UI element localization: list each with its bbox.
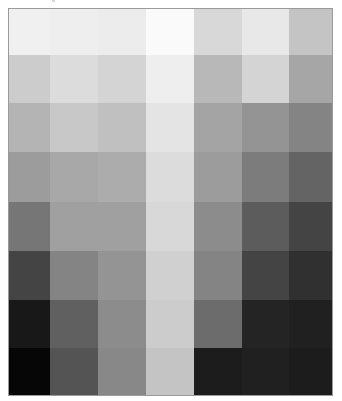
- gray-patch-r6-c7: [289, 251, 332, 300]
- gray-patch-r4-c4: [146, 152, 194, 202]
- gray-patch-r1-c2: [50, 9, 98, 55]
- gray-patch-r5-c6: [242, 202, 289, 251]
- gray-patch-r4-c1: [9, 152, 50, 202]
- gray-patch-r5-c3: [98, 202, 146, 251]
- gray-patch-r6-c3: [98, 251, 146, 300]
- gray-patch-r6-c5: [194, 251, 242, 300]
- gray-patch-r3-c2: [50, 103, 98, 152]
- gray-patch-r3-c6: [242, 103, 289, 152]
- gray-patch-r1-c3: [98, 9, 146, 55]
- gray-patch-r8-c3: [98, 348, 146, 395]
- gray-patch-r3-c7: [289, 103, 332, 152]
- gray-patch-r6-c4: [146, 251, 194, 300]
- gray-patch-r8-c5: [194, 348, 242, 395]
- gray-patch-r2-c3: [98, 55, 146, 103]
- gray-patch-r5-c2: [50, 202, 98, 251]
- gray-patch-r2-c5: [194, 55, 242, 103]
- gray-patch-r7-c5: [194, 300, 242, 348]
- gray-patch-r4-c5: [194, 152, 242, 202]
- gray-patch-r7-c2: [50, 300, 98, 348]
- gray-patch-r5-c5: [194, 202, 242, 251]
- gray-patch-r7-c7: [289, 300, 332, 348]
- gray-patch-r1-c4: [146, 9, 194, 55]
- gray-patch-r7-c1: [9, 300, 50, 348]
- gray-patch-r3-c3: [98, 103, 146, 152]
- gray-patch-r2-c2: [50, 55, 98, 103]
- gray-patch-r2-c6: [242, 55, 289, 103]
- gray-patch-r6-c6: [242, 251, 289, 300]
- gray-patch-r4-c7: [289, 152, 332, 202]
- gray-patch-r3-c5: [194, 103, 242, 152]
- gray-patch-r5-c1: [9, 202, 50, 251]
- gray-patch-r8-c6: [242, 348, 289, 395]
- gray-patch-r2-c4: [146, 55, 194, 103]
- scan-artifact: [52, 0, 55, 2]
- gray-patch-r8-c1: [9, 348, 50, 395]
- gray-patch-r1-c6: [242, 9, 289, 55]
- gray-patch-r1-c7: [289, 9, 332, 55]
- gray-patch-r3-c4: [146, 103, 194, 152]
- gray-patch-r7-c3: [98, 300, 146, 348]
- gray-patch-r6-c2: [50, 251, 98, 300]
- gray-patch-r4-c2: [50, 152, 98, 202]
- gray-patch-r7-c4: [146, 300, 194, 348]
- gray-patch-r5-c4: [146, 202, 194, 251]
- gray-patch-r5-c7: [289, 202, 332, 251]
- gray-patch-r8-c2: [50, 348, 98, 395]
- gray-patch-r4-c6: [242, 152, 289, 202]
- grayscale-grid: [8, 8, 333, 396]
- gray-patch-r2-c1: [9, 55, 50, 103]
- gray-patch-r2-c7: [289, 55, 332, 103]
- gray-patch-r3-c1: [9, 103, 50, 152]
- gray-patch-r8-c4: [146, 348, 194, 395]
- gray-patch-r1-c1: [9, 9, 50, 55]
- gray-patch-r8-c7: [289, 348, 332, 395]
- gray-patch-r1-c5: [194, 9, 242, 55]
- gray-patch-r4-c3: [98, 152, 146, 202]
- gray-patch-r7-c6: [242, 300, 289, 348]
- gray-patch-r6-c1: [9, 251, 50, 300]
